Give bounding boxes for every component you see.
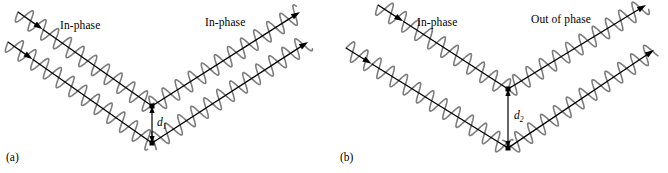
distance-subscript-d1: 1 bbox=[163, 122, 167, 131]
label-in-phase-outgoing-a: In-phase bbox=[205, 17, 245, 29]
b-dimension-arrow bbox=[505, 89, 510, 148]
distance-subscript-d2: 2 bbox=[520, 115, 524, 124]
distance-label-d1: d1 bbox=[157, 117, 167, 129]
wave-interference-figure: In-phase In-phase d1 (a) In-phase Out of… bbox=[0, 0, 668, 173]
label-in-phase-incoming-b: In-phase bbox=[417, 17, 457, 29]
label-out-of-phase-outgoing-b: Out of phase bbox=[531, 14, 591, 26]
a-incident-arrow-0 bbox=[18, 12, 43, 29]
panel-a-diagram bbox=[0, 0, 334, 173]
distance-label-d2: d2 bbox=[514, 110, 524, 122]
label-in-phase-incoming-a: In-phase bbox=[60, 20, 100, 32]
a-incident-arrow-1 bbox=[8, 42, 33, 59]
panel-caption-a: (a) bbox=[6, 152, 19, 164]
panel-b-diagram bbox=[334, 0, 668, 173]
panel-a: In-phase In-phase d1 (a) bbox=[0, 0, 334, 173]
b-incident-arrow-0 bbox=[378, 5, 403, 21]
b-incident-ray-0 bbox=[403, 21, 508, 89]
a-dimension-arrow bbox=[149, 106, 154, 143]
panel-caption-b: (b) bbox=[340, 152, 353, 164]
b-scattered-ray-1 bbox=[508, 50, 654, 148]
panel-b: In-phase Out of phase d2 (b) bbox=[334, 0, 668, 173]
